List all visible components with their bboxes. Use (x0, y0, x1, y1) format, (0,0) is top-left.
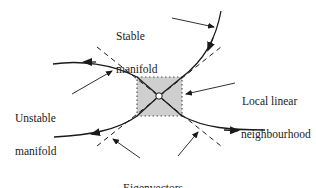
eigenvectors-label-text: Eigenvectors (123, 183, 183, 188)
unstable-manifold-pointer (72, 71, 112, 94)
unstable-flow-arrow-right-icon (224, 130, 238, 131)
stable-manifold-label-line2: manifold (116, 64, 158, 75)
stable-manifold-label: Stable manifold (116, 9, 158, 86)
fixed-point-marker (156, 93, 162, 99)
eigenvector-pointer-right (178, 132, 198, 156)
neighbourhood-label-line2: neighbourhood (241, 129, 311, 140)
stable-manifold-pointer (172, 18, 214, 27)
stable-manifold-label-line1: Stable (116, 31, 158, 42)
unstable-manifold-label-line2: manifold (15, 146, 57, 157)
local-linear-neighbourhood-label: Local linear neighbourhood (241, 74, 311, 151)
unstable-manifold-label-line1: Unstable (15, 113, 57, 124)
eigenvector-pointer-left (113, 139, 140, 158)
stable-flow-arrow-icon (208, 38, 213, 50)
neighbourhood-pointer (186, 83, 235, 94)
eigenvectors-label: Eigenvectors (123, 161, 183, 188)
unstable-manifold-label: Unstable manifold (15, 91, 57, 168)
neighbourhood-label-line1: Local linear (241, 96, 311, 107)
